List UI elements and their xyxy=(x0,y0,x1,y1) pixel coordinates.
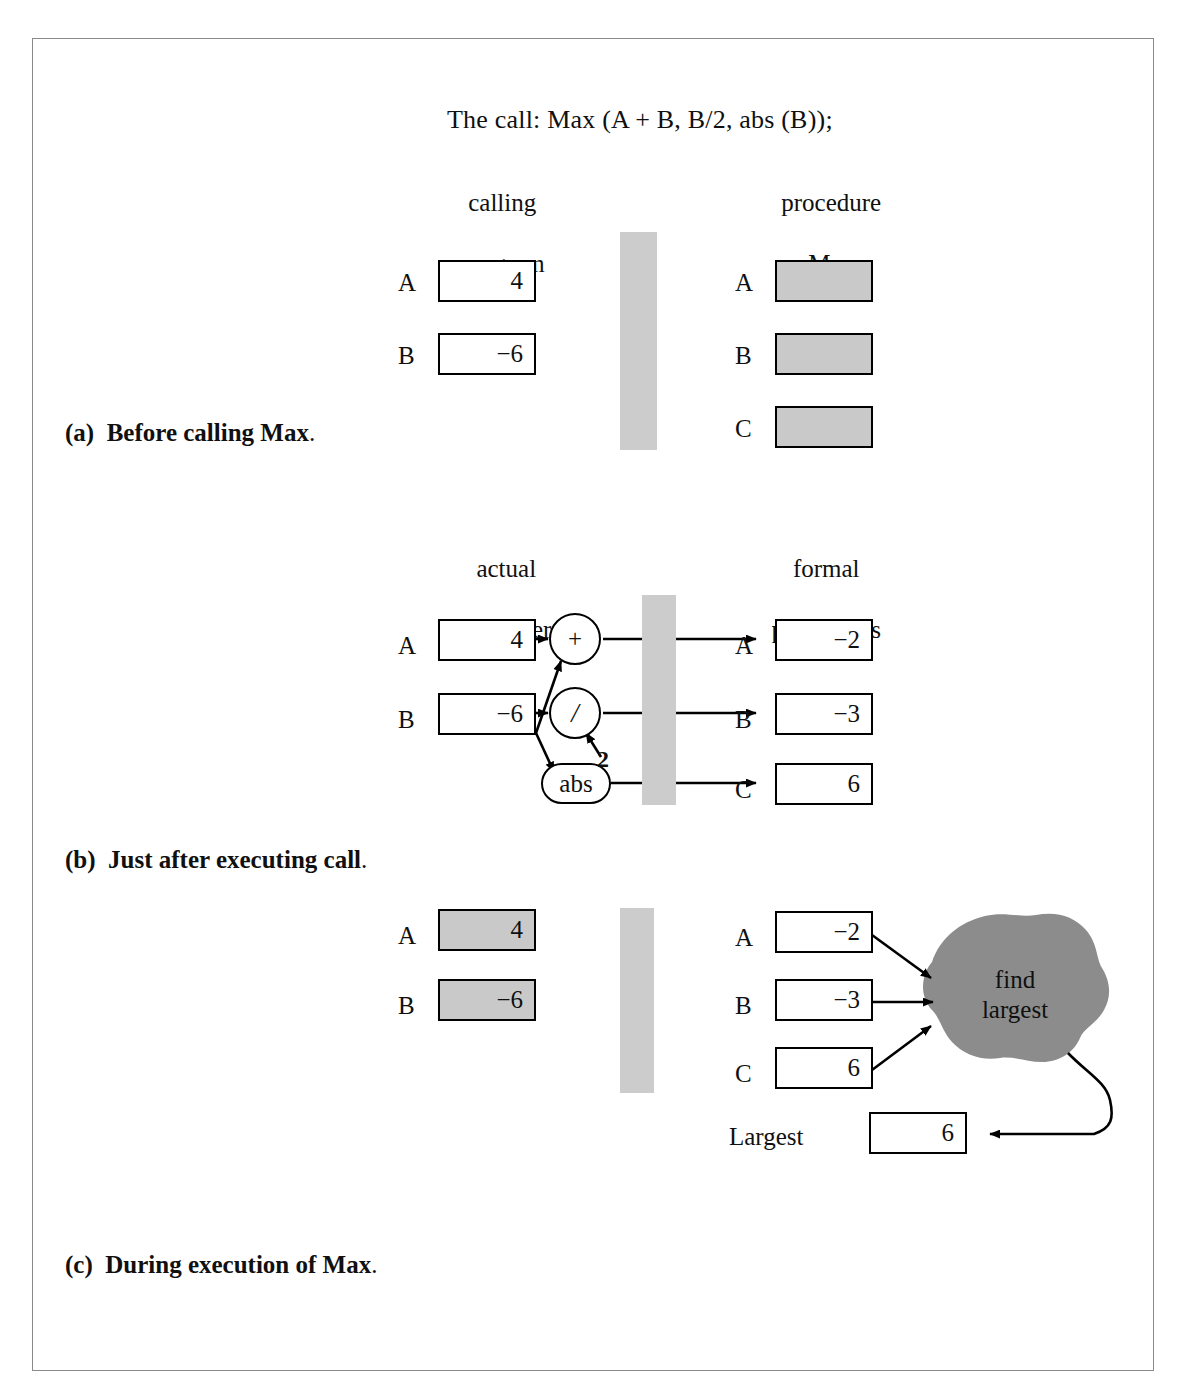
panel-b-right-var-label-b: B xyxy=(735,705,752,735)
panel-c-right-var-label-a: A xyxy=(735,923,753,953)
panel-a-right-heading-line1: procedure xyxy=(781,189,881,216)
panel-b-left-var-box-b: −6 xyxy=(438,693,536,735)
constant-operand-2: 2 xyxy=(597,745,609,773)
panel-c-right-var-box-c: 6 xyxy=(775,1047,873,1089)
largest-result-label: Largest xyxy=(729,1122,804,1152)
operator-divide-symbol: / xyxy=(571,698,579,729)
panel-a-left-var-label-b: B xyxy=(398,341,415,371)
panel-b-caption-period: . xyxy=(361,846,367,873)
panel-c-caption-tag: (c) xyxy=(65,1251,93,1278)
panel-b-left-heading-line1: actual xyxy=(476,555,536,582)
panel-c-right-var-box-b: −3 xyxy=(775,979,873,1021)
panel-a-right-var-label-b: B xyxy=(735,341,752,371)
panel-c-left-var-box-b: −6 xyxy=(438,979,536,1021)
largest-result-box: 6 xyxy=(869,1112,967,1154)
panel-c-caption: (c) During execution of Max. xyxy=(65,1250,377,1280)
panel-b-right-heading-line1: formal xyxy=(793,555,860,582)
panel-a-right-var-box-b xyxy=(775,333,873,375)
panel-a-right-var-box-a xyxy=(775,260,873,302)
panel-b-left-var-label-b: B xyxy=(398,705,415,735)
panel-a-caption-tag: (a) xyxy=(65,419,94,446)
panel-a-divider xyxy=(620,232,657,450)
panel-a-caption-text: Before calling Max xyxy=(107,419,309,446)
operator-plus-symbol: + xyxy=(568,625,582,653)
find-largest-label: find largest xyxy=(960,965,1070,1025)
call-line: The call: Max (A + B, B/2, abs (B)); xyxy=(447,105,833,136)
panel-b-divider xyxy=(642,595,676,805)
panel-a-right-var-box-c xyxy=(775,406,873,448)
panel-a-left-var-label-a: A xyxy=(398,268,416,298)
find-largest-line1: find xyxy=(960,965,1070,995)
panel-c-divider xyxy=(620,908,654,1093)
panel-c-right-var-box-a: −2 xyxy=(775,911,873,953)
panel-b-left-var-box-a: 4 xyxy=(438,619,536,661)
panel-b-caption: (b) Just after executing call. xyxy=(65,845,367,875)
panel-b-right-var-label-c: C xyxy=(735,775,752,805)
panel-b-caption-text: Just after executing call xyxy=(108,846,361,873)
panel-a-left-var-box-a: 4 xyxy=(438,260,536,302)
panel-c-left-var-box-a: 4 xyxy=(438,909,536,951)
panel-b-caption-tag: (b) xyxy=(65,846,96,873)
panel-c-right-var-label-c: C xyxy=(735,1059,752,1089)
panel-c-caption-text: During execution of Max xyxy=(105,1251,371,1278)
panel-b-right-var-box-b: −3 xyxy=(775,693,873,735)
panel-a-right-var-label-c: C xyxy=(735,414,752,444)
operator-divide-node: / xyxy=(549,687,601,739)
panel-a-caption: (a) Before calling Max. xyxy=(65,418,315,448)
panel-a-right-var-label-a: A xyxy=(735,268,753,298)
panel-c-left-var-label-b: B xyxy=(398,991,415,1021)
panel-a-left-heading-line1: calling xyxy=(468,189,536,216)
panel-c-left-var-label-a: A xyxy=(398,921,416,951)
operator-plus-node: + xyxy=(549,613,601,665)
panel-b-right-var-box-a: −2 xyxy=(775,619,873,661)
panel-a-left-var-box-b: −6 xyxy=(438,333,536,375)
panel-b-left-var-label-a: A xyxy=(398,631,416,661)
panel-b-right-var-label-a: A xyxy=(735,631,753,661)
panel-a-caption-period: . xyxy=(309,419,315,446)
find-largest-line2: largest xyxy=(960,995,1070,1025)
panel-c-right-var-label-b: B xyxy=(735,991,752,1021)
panel-c-caption-period: . xyxy=(371,1251,377,1278)
panel-b-right-var-box-c: 6 xyxy=(775,763,873,805)
operator-abs-symbol: abs xyxy=(559,770,592,798)
